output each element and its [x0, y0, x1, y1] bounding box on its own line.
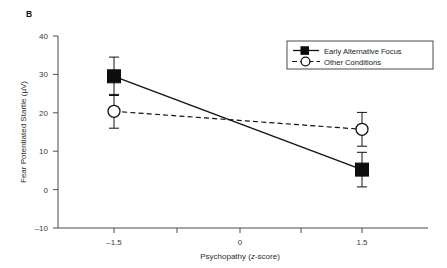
data-point-other-conditions-right	[356, 123, 368, 135]
legend-entry-other-conditions: Other Conditions	[292, 57, 381, 66]
x-axis-title-prefix: Psychopathy (	[200, 252, 251, 261]
legend-marker-open-circle	[301, 57, 310, 66]
y-tick-label: 0	[44, 186, 49, 195]
x-tick-label: 0	[238, 238, 243, 247]
y-tick-label: 20	[39, 109, 48, 118]
legend-label-early-alternative-focus: Early Alternative Focus	[324, 47, 402, 56]
x-axis-tick-labels: –1.5 0 1.5	[106, 238, 368, 247]
series-line-other-conditions	[114, 111, 362, 129]
y-axis-tick-labels: 40 30 20 10 0 –10	[35, 32, 49, 233]
y-axis-ticks	[53, 36, 58, 228]
legend-marker-filled-square	[301, 47, 309, 55]
data-point-other-conditions-left	[108, 105, 120, 117]
chart-legend: Early Alternative Focus Other Conditions	[287, 41, 433, 69]
x-tick-label: 1.5	[356, 238, 368, 247]
x-axis-title-suffix: -score)	[255, 252, 280, 261]
x-axis-ticks	[114, 228, 362, 233]
chart-svg: B 40 30 20 10 0 –10 Fear Potentiated Sta…	[0, 0, 447, 268]
figure-panel-b: B 40 30 20 10 0 –10 Fear Potentiated Sta…	[0, 0, 447, 268]
y-axis-title: Fear Potentiated Startle (µV)	[19, 81, 28, 183]
y-tick-label: –10	[35, 224, 49, 233]
x-tick-label: –1.5	[106, 238, 122, 247]
y-tick-label: 10	[39, 147, 48, 156]
x-axis-title: Psychopathy (z-score)	[200, 252, 280, 261]
y-tick-label: 30	[39, 70, 48, 79]
panel-label: B	[26, 9, 32, 19]
legend-label-other-conditions: Other Conditions	[324, 58, 381, 67]
data-point-early-alternative-focus-left	[108, 70, 121, 83]
data-point-early-alternative-focus-right	[356, 163, 369, 176]
series-line-early-alternative-focus	[114, 76, 362, 169]
y-tick-label: 40	[39, 32, 48, 41]
